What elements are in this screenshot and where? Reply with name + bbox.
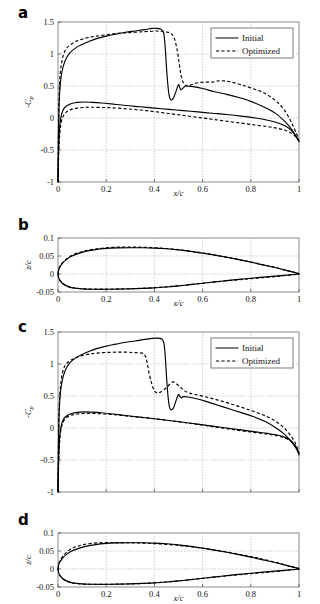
x-tick-label: 0.6 xyxy=(197,294,208,304)
data-curve-initial xyxy=(58,543,299,569)
data-curve-initial xyxy=(58,569,299,584)
x-axis-title: x/c xyxy=(173,593,184,603)
x-tick-label: 0.6 xyxy=(197,589,208,599)
legend-label: Optimized xyxy=(242,356,280,366)
x-tick-label: 0.8 xyxy=(245,589,256,599)
data-curve-optimized xyxy=(58,107,299,182)
panel-b-plot: 00.20.40.60.81-0.0500.050.1x/cz/c xyxy=(0,200,320,310)
y-axis-title: -Cp xyxy=(23,95,34,108)
data-curve-optimized xyxy=(58,543,299,569)
x-tick-label: 0.8 xyxy=(245,294,256,304)
data-curve-optimized xyxy=(58,247,299,274)
y-tick-label: -0.5 xyxy=(41,145,54,155)
x-tick-label: 0 xyxy=(56,184,60,194)
x-tick-label: 0.4 xyxy=(149,589,160,599)
x-tick-label: 0 xyxy=(56,589,60,599)
y-tick-label: -1 xyxy=(47,177,54,187)
y-tick-label: 0.1 xyxy=(43,528,54,538)
y-tick-label: -0.5 xyxy=(41,455,54,465)
panel-d: d 00.20.40.60.81-0.0500.050.1x/cz/c xyxy=(0,495,320,604)
y-tick-label: 1.5 xyxy=(43,17,54,27)
panel-a: a 00.20.40.60.81-1-0.500.511.5x/c-CpInit… xyxy=(0,0,320,200)
y-tick-label: 0 xyxy=(50,564,54,574)
y-tick-label: 0 xyxy=(50,113,54,123)
y-axis-title: -Cp xyxy=(23,405,34,418)
y-axis-title-group: -Cp xyxy=(23,405,34,418)
y-axis-title-group: z/c xyxy=(23,555,33,566)
data-curve-initial xyxy=(58,102,299,182)
legend-label: Initial xyxy=(242,33,264,43)
panel-c: c 00.20.40.60.81-1-0.500.511.5x/c-CpInit… xyxy=(0,310,320,495)
y-axis-title-group: z/c xyxy=(23,260,33,271)
y-tick-label: 0.05 xyxy=(39,546,54,556)
x-tick-label: 0.8 xyxy=(245,184,256,194)
x-tick-label: 0.2 xyxy=(101,294,112,304)
legend-label: Optimized xyxy=(242,46,280,56)
y-tick-label: 0.5 xyxy=(43,391,54,401)
x-tick-label: 1 xyxy=(297,184,301,194)
y-tick-label: 1 xyxy=(50,49,54,59)
data-curve-optimized xyxy=(58,569,299,584)
data-curve-optimized xyxy=(58,274,299,289)
y-tick-label: -1 xyxy=(47,487,54,495)
y-axis-title: z/c xyxy=(23,260,33,271)
y-tick-label: -0.05 xyxy=(36,287,54,297)
figure-root: a 00.20.40.60.81-1-0.500.511.5x/c-CpInit… xyxy=(0,0,320,604)
data-curve-initial xyxy=(58,248,299,274)
x-tick-label: 1 xyxy=(297,589,301,599)
y-tick-label: 0.5 xyxy=(43,81,54,91)
y-tick-label: 1.5 xyxy=(43,327,54,337)
x-tick-label: 0.4 xyxy=(149,294,160,304)
x-axis-title: x/c xyxy=(173,298,184,308)
y-axis-title-group: -Cp xyxy=(23,95,34,108)
legend: InitialOptimized xyxy=(211,338,293,368)
y-tick-label: -0.05 xyxy=(36,582,54,592)
y-tick-label: 0 xyxy=(50,269,54,279)
data-curve-initial xyxy=(58,412,299,492)
x-tick-label: 0.6 xyxy=(197,184,208,194)
data-curve-optimized xyxy=(58,413,299,492)
y-tick-label: 0.05 xyxy=(39,251,54,261)
x-axis-title: x/c xyxy=(173,188,184,198)
x-tick-label: 0.4 xyxy=(149,184,160,194)
x-tick-label: 0.2 xyxy=(101,589,112,599)
panel-d-plot: 00.20.40.60.81-0.0500.050.1x/cz/c xyxy=(0,495,320,604)
x-tick-label: 1 xyxy=(297,294,301,304)
legend: InitialOptimized xyxy=(211,28,293,58)
y-tick-label: 0 xyxy=(50,423,54,433)
legend-label: Initial xyxy=(242,343,264,353)
x-tick-label: 0.2 xyxy=(101,184,112,194)
data-curve-initial xyxy=(58,274,299,289)
panel-c-plot: 00.20.40.60.81-1-0.500.511.5x/c-CpInitia… xyxy=(0,310,320,495)
panel-a-plot: 00.20.40.60.81-1-0.500.511.5x/c-CpInitia… xyxy=(0,0,320,200)
y-tick-label: 1 xyxy=(50,359,54,369)
y-tick-label: 0.1 xyxy=(43,233,54,243)
x-tick-label: 0 xyxy=(56,294,60,304)
panel-b: b 00.20.40.60.81-0.0500.050.1x/cz/c xyxy=(0,200,320,310)
y-axis-title: z/c xyxy=(23,555,33,566)
